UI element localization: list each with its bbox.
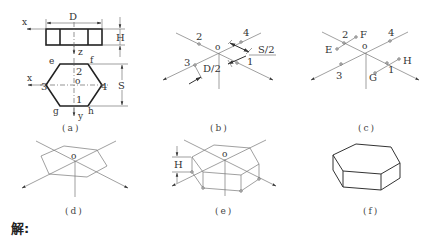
svg-text:2: 2	[196, 31, 202, 42]
svg-text:x: x	[27, 73, 32, 83]
prism-top-face	[333, 144, 400, 174]
label-D-half: D/2	[203, 63, 221, 74]
svg-text:f: f	[90, 55, 94, 65]
caption-e: (e)	[215, 206, 233, 216]
label-H-e: H	[174, 159, 183, 170]
svg-text:y: y	[77, 111, 84, 121]
figure-e: H o (e)	[172, 140, 276, 216]
label-H: H	[116, 32, 125, 43]
svg-text:e: e	[49, 56, 54, 66]
svg-text:2: 2	[342, 29, 348, 40]
label-S: S	[118, 80, 125, 91]
solution-label: 解:	[11, 218, 29, 237]
figure-f: (f)	[333, 144, 400, 216]
svg-text:3: 3	[336, 70, 342, 81]
svg-text:4: 4	[243, 27, 249, 38]
figure-c: 2 4 3 1 o E F G H (c)	[311, 27, 419, 133]
svg-text:H: H	[403, 55, 412, 66]
svg-text:o: o	[222, 149, 227, 159]
svg-text:h: h	[88, 106, 94, 116]
svg-text:o: o	[215, 42, 220, 52]
svg-text:3: 3	[184, 57, 190, 68]
svg-text:4: 4	[101, 81, 107, 92]
svg-text:o: o	[75, 76, 80, 86]
svg-text:1: 1	[76, 94, 82, 105]
svg-text:z: z	[78, 47, 83, 57]
svg-text:x: x	[22, 17, 27, 27]
figure-a: D x H z x y e f g h 2 o 3 4 1 S	[22, 11, 128, 133]
svg-text:3: 3	[41, 81, 47, 92]
caption-f: (f)	[363, 206, 379, 216]
svg-text:1: 1	[388, 64, 394, 75]
figure-b: 2 4 3 1 o S/2 D/2 (b)	[163, 27, 276, 133]
svg-text:4: 4	[388, 27, 394, 38]
isometric-hexagonal-prism-diagram: D x H z x y e f g h 2 o 3 4 1 S	[0, 0, 433, 243]
caption-c: (c)	[358, 123, 376, 133]
svg-text:g: g	[53, 106, 59, 116]
caption-b: (b)	[210, 123, 229, 133]
caption-d: (d)	[65, 206, 84, 216]
label-D: D	[69, 11, 77, 22]
svg-text:G: G	[369, 72, 377, 83]
figure-d: o (d)	[22, 141, 128, 216]
caption-a: (a)	[62, 123, 80, 133]
svg-text:E: E	[325, 44, 332, 55]
label-S-half: S/2	[258, 44, 275, 55]
svg-text:F: F	[360, 29, 367, 40]
svg-text:o: o	[71, 151, 76, 161]
svg-text:o: o	[362, 41, 367, 51]
svg-text:1: 1	[247, 56, 253, 67]
